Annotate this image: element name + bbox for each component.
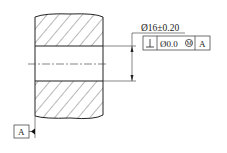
part-lower-section [35, 81, 103, 119]
fcf-tolerance: Ø0.0 [160, 39, 178, 49]
fcf-datum: A [199, 39, 206, 49]
dimension-text: Ø16±0.20 [141, 23, 179, 33]
feature-control-frame: Ø0.0 M A [143, 36, 210, 50]
max-material-condition-icon: M [185, 39, 192, 46]
datum-feature: A [14, 116, 35, 138]
svg-text:M: M [187, 40, 193, 46]
drawing-canvas: Ø16±0.20 Ø0.0 M A A [0, 0, 227, 153]
part-upper-section [35, 14, 103, 46]
datum-triangle-icon [31, 129, 35, 135]
bore [35, 46, 103, 81]
datum-label: A [18, 127, 25, 137]
